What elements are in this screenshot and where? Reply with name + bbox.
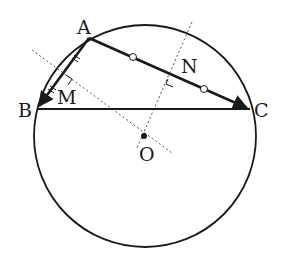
equal-mark-an [130, 54, 137, 61]
diagram-canvas: A B C M N O [0, 0, 286, 269]
right-angle-m [66, 75, 72, 85]
perpendicular-bisector-ac [136, 22, 192, 150]
label-n: N [181, 55, 198, 77]
geometry-diagram: A B C M N O [0, 0, 286, 269]
label-b: B [18, 99, 32, 121]
label-c: C [254, 99, 269, 121]
equal-mark-nc [201, 86, 208, 93]
right-angle-n [166, 79, 173, 87]
label-a: A [76, 16, 91, 38]
label-o: O [139, 143, 155, 165]
center-point-o [141, 133, 147, 139]
label-m: M [57, 86, 76, 108]
segment-ac [89, 38, 247, 108]
